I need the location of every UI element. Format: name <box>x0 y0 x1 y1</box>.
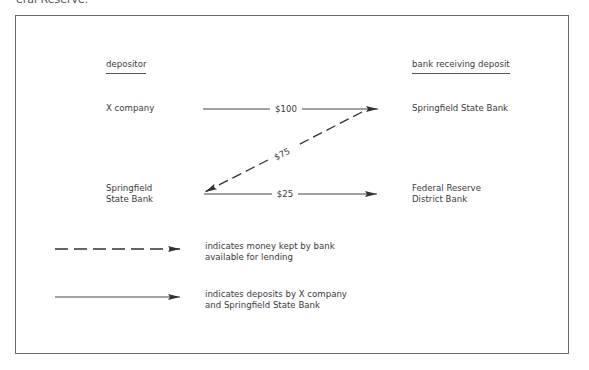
arrow-25: $25 <box>204 189 377 199</box>
amount-100: $100 <box>275 104 297 114</box>
arrow-75-dashed: $75 <box>205 112 362 192</box>
amount-25: $25 <box>277 189 293 199</box>
amount-75: $75 <box>272 146 291 162</box>
flow-arrows: $100 $75 $25 <box>0 0 589 370</box>
arrow-100: $100 <box>203 104 378 114</box>
